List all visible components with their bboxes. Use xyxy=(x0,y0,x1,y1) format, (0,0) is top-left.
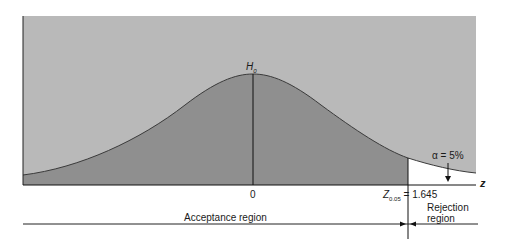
z-axis-label: z xyxy=(480,178,486,189)
alpha-label: α = 5% xyxy=(432,150,464,161)
acceptance-region-label: Acceptance region xyxy=(184,212,267,223)
center-tick-label: 0 xyxy=(250,189,256,200)
left-region-arrow xyxy=(400,222,406,227)
rejection-region-label-2: region xyxy=(427,213,455,224)
right-region-arrow xyxy=(410,222,416,227)
rejection-region-label-1: Rejection xyxy=(427,202,469,213)
null-hypothesis-label: H0 xyxy=(246,61,257,77)
